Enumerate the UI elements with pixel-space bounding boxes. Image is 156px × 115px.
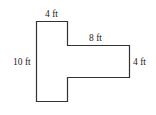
top-width-label: 4 ft: [45, 10, 58, 20]
t-shape-outline: [37, 22, 130, 102]
left-height-label: 10 ft: [13, 58, 31, 68]
arm-length-label: 8 ft: [89, 34, 102, 44]
arm-height-label: 4 ft: [133, 58, 146, 68]
